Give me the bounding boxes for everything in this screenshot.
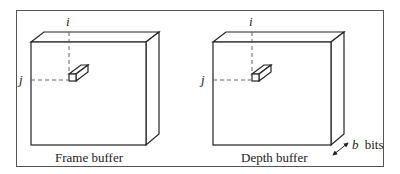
depth-arrow-icon [333,143,348,155]
depth-unit: bits [365,137,384,152]
depth-buffer-label: Depth buffer [241,150,308,165]
depth-buffer-front-face [213,42,331,145]
frame-buffer-top-face [31,32,159,42]
depth-buffer-side-face [331,32,344,145]
frame-buffer-i-label: i [66,14,70,29]
frame-buffer-box: i j Frame buffer [17,14,159,165]
frame-buffer-side-face [146,32,159,145]
depth-bits-label: b bits [352,137,384,152]
depth-buffer-i-label: i [249,14,253,29]
depth-buffer-top-face [213,32,344,42]
frame-buffer-label: Frame buffer [55,150,124,165]
frame-buffer-j-label: j [17,72,23,87]
depth-symbol: b [352,137,359,152]
frame-buffer-front-face [31,42,146,145]
buffer-diagram: i j Frame buffer i j Depth buffer b bits [0,0,400,174]
depth-buffer-j-label: j [199,72,205,87]
depth-buffer-box: i j Depth buffer b bits [199,14,384,165]
